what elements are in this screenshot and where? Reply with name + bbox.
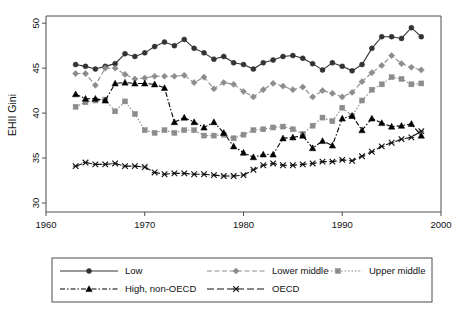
data-point-marker — [271, 58, 276, 63]
data-point-marker — [379, 82, 384, 87]
data-point-marker — [202, 50, 207, 55]
data-point-marker — [152, 130, 157, 135]
legend-label: High, non-OECD — [125, 283, 196, 294]
legend-label: OECD — [272, 283, 300, 294]
data-point-marker — [251, 128, 256, 133]
data-point-marker — [340, 105, 345, 110]
data-point-marker — [142, 128, 147, 133]
y-tick-label: 30 — [31, 198, 42, 209]
data-point-marker — [123, 51, 128, 56]
data-point-marker — [389, 34, 394, 39]
data-point-marker — [409, 25, 414, 30]
data-point-marker — [87, 269, 92, 274]
data-point-marker — [202, 133, 207, 138]
data-point-marker — [211, 57, 216, 62]
data-point-marker — [320, 67, 325, 72]
data-point-marker — [320, 115, 325, 120]
data-point-marker — [290, 53, 295, 58]
data-point-marker — [192, 46, 197, 51]
data-point-marker — [162, 128, 167, 133]
data-point-marker — [336, 269, 341, 274]
y-tick-label: 45 — [31, 63, 42, 74]
data-point-marker — [310, 61, 315, 66]
data-point-marker — [399, 76, 404, 81]
data-point-marker — [231, 136, 236, 141]
data-point-marker — [192, 128, 197, 133]
data-point-marker — [281, 124, 286, 129]
y-tick-label: 40 — [31, 108, 42, 119]
ehii-gini-line-chart: 3035404550 19601970198019902000 EHII Gin… — [0, 0, 459, 309]
data-point-marker — [83, 64, 88, 69]
data-point-marker — [310, 123, 315, 128]
data-point-marker — [300, 56, 305, 61]
data-point-marker — [409, 82, 414, 87]
data-point-marker — [360, 62, 365, 67]
data-point-marker — [261, 127, 266, 132]
data-point-marker — [251, 67, 256, 72]
data-point-marker — [360, 98, 365, 103]
legend-label: Low — [125, 265, 143, 276]
data-point-marker — [142, 50, 147, 55]
x-tick-label: 1990 — [332, 219, 353, 230]
data-point-marker — [261, 60, 266, 65]
data-point-marker — [330, 60, 335, 65]
data-point-marker — [231, 60, 236, 65]
data-point-marker — [290, 127, 295, 132]
data-point-marker — [123, 99, 128, 104]
chart-legend: LowLower middleUpper middleHigh, non-OEC… — [52, 258, 432, 302]
data-point-marker — [350, 68, 355, 73]
data-point-marker — [241, 132, 246, 137]
data-point-marker — [172, 130, 177, 135]
x-tick-label: 1970 — [134, 219, 155, 230]
data-point-marker — [379, 34, 384, 39]
data-point-marker — [132, 54, 137, 59]
data-point-marker — [271, 125, 276, 130]
legend-label: Lower middle — [272, 265, 329, 276]
x-tick-label: 2000 — [430, 219, 451, 230]
data-point-marker — [419, 34, 424, 39]
data-point-marker — [93, 67, 98, 72]
data-point-marker — [369, 46, 374, 51]
y-tick-label: 35 — [31, 153, 42, 164]
legend-label: Upper middle — [369, 265, 426, 276]
data-point-marker — [211, 133, 216, 138]
data-point-marker — [340, 64, 345, 69]
data-point-marker — [369, 87, 374, 92]
data-point-marker — [182, 128, 187, 133]
data-point-marker — [132, 112, 137, 117]
y-tick-label: 50 — [31, 18, 42, 29]
x-tick-label: 1960 — [35, 219, 56, 230]
data-point-marker — [330, 119, 335, 124]
data-point-marker — [399, 36, 404, 41]
data-point-marker — [281, 54, 286, 59]
data-point-marker — [419, 81, 424, 86]
data-point-marker — [241, 62, 246, 67]
data-point-marker — [152, 44, 157, 49]
x-tick-label: 1980 — [233, 219, 254, 230]
data-point-marker — [73, 62, 78, 67]
data-point-marker — [162, 40, 167, 45]
data-point-marker — [389, 75, 394, 80]
chart-figure: 3035404550 19601970198019902000 EHII Gin… — [0, 0, 459, 309]
data-point-marker — [73, 104, 78, 109]
y-axis-label: EHII Gini — [6, 94, 18, 136]
data-point-marker — [182, 37, 187, 42]
data-point-marker — [113, 109, 118, 114]
data-point-marker — [172, 43, 177, 48]
data-point-marker — [221, 54, 226, 59]
